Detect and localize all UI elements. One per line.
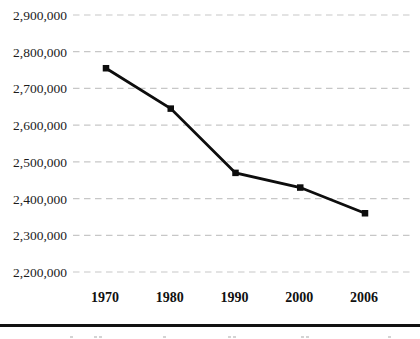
chart-canvas: 2,900,0002,800,0002,700,0002,600,0002,50… xyxy=(0,0,420,339)
y-axis-tick-label: 2,400,000 xyxy=(13,192,67,207)
cropped-letter-top xyxy=(301,336,304,338)
cropped-caption-remnant xyxy=(0,334,420,339)
y-axis-tick-label: 2,500,000 xyxy=(13,155,67,170)
cropped-letter-top xyxy=(163,336,166,338)
data-line xyxy=(106,68,365,213)
data-point-marker xyxy=(297,184,304,191)
x-axis-tick-label: 2000 xyxy=(285,290,313,305)
line-chart-page: 2,900,0002,800,0002,700,0002,600,0002,50… xyxy=(0,0,420,339)
y-axis-tick-label: 2,900,000 xyxy=(13,8,67,23)
cropped-letter-top xyxy=(388,336,391,338)
x-axis-tick-label: 2006 xyxy=(350,290,378,305)
x-axis-tick-label: 1970 xyxy=(91,290,119,305)
line-chart: 2,900,0002,800,0002,700,0002,600,0002,50… xyxy=(0,0,420,339)
bottom-divider-rule xyxy=(0,324,420,327)
data-point-marker xyxy=(168,105,175,112)
cropped-letter-top xyxy=(94,336,97,338)
cropped-letter-top xyxy=(228,336,231,338)
y-axis-tick-label: 2,600,000 xyxy=(13,118,67,133)
x-axis-tick-label: 1980 xyxy=(156,290,184,305)
cropped-letter-top xyxy=(306,336,309,338)
cropped-letter-top xyxy=(233,336,236,338)
y-axis-tick-label: 2,700,000 xyxy=(13,81,67,96)
cropped-letter-top xyxy=(99,336,102,338)
y-axis-tick-label: 2,800,000 xyxy=(13,45,67,60)
cropped-letter-top xyxy=(70,336,73,338)
y-axis-tick-label: 2,200,000 xyxy=(13,265,67,280)
x-axis-tick-label: 1990 xyxy=(221,290,249,305)
data-point-marker xyxy=(232,170,239,177)
data-point-marker xyxy=(362,210,369,217)
data-point-marker xyxy=(103,65,110,72)
y-axis-tick-label: 2,300,000 xyxy=(13,228,67,243)
